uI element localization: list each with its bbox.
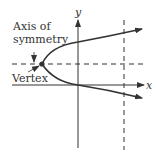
y-axis-label: y (74, 6, 82, 19)
x-axis-label: x (146, 79, 153, 92)
parabola-diagram: Axis of symmetry Vertex x y (0, 0, 157, 168)
vertex-label: Vertex (11, 72, 49, 85)
parabola-lower-branch (42, 64, 142, 98)
axis-of-symmetry-label-line1: Axis of (12, 20, 51, 33)
axis-of-symmetry-label-line2: symmetry (13, 33, 69, 46)
vertex-point (39, 61, 44, 66)
